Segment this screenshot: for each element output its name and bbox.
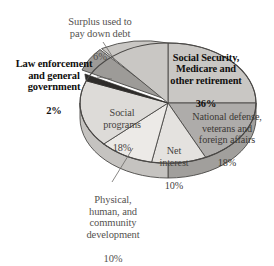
slice-label-text: Net interest — [146, 145, 202, 168]
slice-label-text: Social programs — [88, 107, 156, 130]
slice-label-text: Law enforcement and general government — [2, 58, 106, 93]
slice-label-percent: 10% — [62, 253, 164, 265]
slice-label-text: Physical, human, and community developme… — [62, 194, 164, 241]
slice-label-text: Surplus used to pay down debt — [44, 16, 156, 40]
slice-label-physical-human-community: Physical, human, and community developme… — [62, 182, 164, 266]
slice-label-text: Social Security, Medicare and other reti… — [150, 52, 262, 87]
